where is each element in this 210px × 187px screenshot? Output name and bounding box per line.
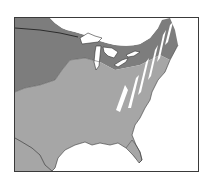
map-svg	[0, 0, 210, 187]
range-map	[0, 0, 210, 187]
